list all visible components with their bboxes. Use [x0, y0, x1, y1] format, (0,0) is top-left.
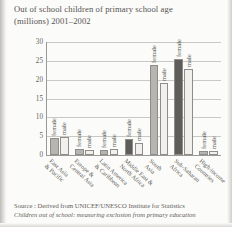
bar-label: male: [135, 128, 142, 141]
y-axis-tick-label: 5: [39, 132, 43, 140]
bar-chart: 051015202530 femalemalefemalemalefemalem…: [14, 36, 222, 196]
bar-label: female: [125, 119, 132, 137]
bar-male: male: [160, 83, 169, 155]
bar-label: female: [75, 129, 82, 147]
bar-female: female: [174, 59, 183, 155]
bar-male: male: [110, 149, 119, 155]
x-axis-label: East Asia& Pacific: [44, 157, 71, 183]
page-edge-bottom-shadow: [0, 223, 232, 227]
source-note-line-2: Children out of school: measuring exclus…: [14, 210, 224, 219]
bar-series-container: femalemalefemalemalefemalemalefemalemale…: [47, 42, 221, 155]
source-note: Source : Derived from UNICEF/UNESCO Inst…: [14, 201, 224, 219]
plot-area: 051015202530 femalemalefemalemalefemalem…: [46, 42, 221, 156]
bar-female: female: [125, 139, 134, 155]
bar-male: male: [135, 143, 144, 155]
chart-title-line-2: (millions) 2001–2002: [14, 16, 220, 28]
bar-label: male: [110, 134, 117, 147]
bar-group: femalemale: [196, 42, 221, 155]
bar-male: male: [184, 69, 193, 155]
page-edge-right-shadow: [227, 0, 232, 227]
bar-female: female: [50, 138, 59, 155]
bar-label: male: [185, 54, 192, 67]
bar-female: female: [75, 149, 84, 155]
bar-label: female: [150, 45, 157, 63]
bar-label: male: [210, 136, 217, 149]
x-axis-label: Sub-SaharanAfrica: [168, 157, 201, 189]
bar-male: male: [60, 137, 69, 155]
bar-female: female: [150, 65, 159, 155]
chart-title: Out of school children of primary school…: [14, 4, 220, 27]
x-axis-label: High-incomeCountries: [193, 157, 227, 190]
x-axis-category-labels: East Asia& PacificEurope &Central AsiaLa…: [46, 157, 220, 197]
y-axis-tick-label: 25: [36, 57, 43, 65]
source-note-line-1: Source : Derived from UNICEF/UNESCO Inst…: [14, 201, 224, 210]
bar-group: femalemale: [146, 42, 171, 155]
bar-label: male: [61, 122, 68, 135]
bar-label: female: [100, 130, 107, 148]
bar-group: femalemale: [97, 42, 122, 155]
y-axis-tick-label: 15: [36, 95, 43, 103]
y-axis-tick-label: 10: [36, 113, 43, 121]
bar-male: male: [85, 150, 94, 155]
bar-group: femalemale: [47, 42, 72, 155]
bar-female: female: [199, 151, 208, 155]
bar-group: femalemale: [72, 42, 97, 155]
bar-label: female: [51, 118, 58, 136]
y-axis-tick-label: 0: [39, 151, 43, 159]
page-edge-left-shadow: [0, 0, 7, 227]
bar-male: male: [209, 151, 218, 155]
bar-group: femalemale: [171, 42, 196, 155]
bar-label: female: [200, 131, 207, 149]
bar-group: femalemale: [122, 42, 147, 155]
scanned-page: Out of school children of primary school…: [0, 0, 232, 227]
x-axis-label: Europe &Central Asia: [69, 157, 102, 188]
y-axis-tick-label: 30: [36, 38, 43, 46]
bar-label: male: [85, 135, 92, 148]
chart-title-line-1: Out of school children of primary school…: [14, 4, 220, 16]
y-axis-tick-label: 20: [36, 76, 43, 84]
bar-label: male: [160, 69, 167, 82]
bar-female: female: [100, 150, 109, 155]
bar-label: female: [175, 39, 182, 57]
